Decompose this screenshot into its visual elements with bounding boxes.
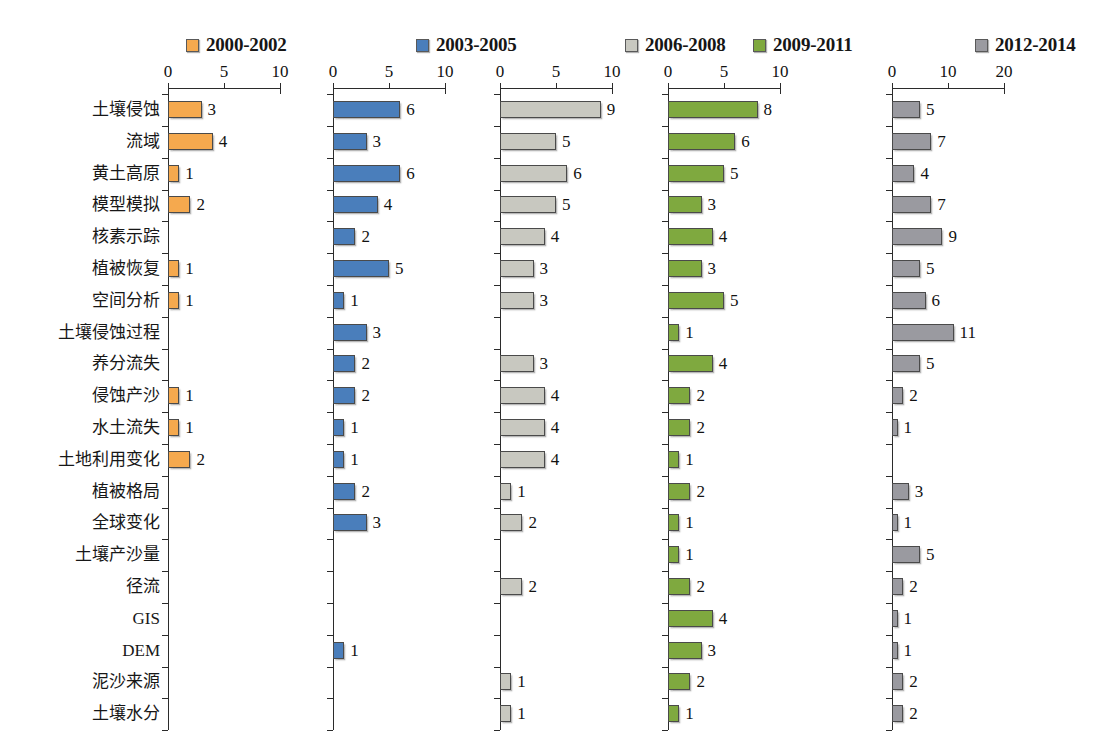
bar-value-label: 4 <box>719 610 728 627</box>
y-axis-tick <box>494 380 500 381</box>
bar <box>500 387 545 404</box>
bar-value-label: 6 <box>406 165 415 182</box>
bar <box>668 165 724 182</box>
y-axis-tick <box>327 444 333 445</box>
y-axis-tick <box>494 94 500 95</box>
bar-row: 3 <box>333 514 500 531</box>
y-axis-tick <box>327 126 333 127</box>
y-axis-tick <box>162 603 168 604</box>
x-axis-line <box>668 88 780 89</box>
bar-row: 4 <box>668 355 892 372</box>
y-axis-tick <box>886 571 892 572</box>
bar-row: 2 <box>333 228 500 245</box>
bar-value-label: 4 <box>551 451 560 468</box>
x-tick-label: 10 <box>272 62 289 82</box>
y-axis-tick <box>162 94 168 95</box>
y-axis-tick <box>327 539 333 540</box>
bar-row: 5 <box>892 355 1120 372</box>
bar-value-label: 2 <box>196 451 205 468</box>
bar-row: 1 <box>333 419 500 436</box>
y-axis-tick <box>494 190 500 191</box>
y-axis-tick <box>162 698 168 699</box>
bar <box>500 292 534 309</box>
y-axis-tick <box>162 539 168 540</box>
bar-row: 6 <box>333 165 500 182</box>
bar-value-label: 2 <box>696 578 705 595</box>
bar <box>892 578 903 595</box>
x-axis-end-cap <box>1004 88 1005 94</box>
plot-area: 86534351422121124321 <box>668 88 892 722</box>
y-axis-tick <box>162 508 168 509</box>
y-axis-tick <box>327 635 333 636</box>
bar-row: 2 <box>333 387 500 404</box>
bar-value-label: 3 <box>373 324 382 341</box>
bar-value-label: 3 <box>708 260 717 277</box>
y-axis-tick <box>327 190 333 191</box>
bar-row: 1 <box>168 260 333 277</box>
bar-row: 2 <box>500 578 668 595</box>
bar <box>500 355 534 372</box>
bar-value-label: 1 <box>685 451 694 468</box>
x-tick-label: 20 <box>996 62 1013 82</box>
bar <box>892 483 909 500</box>
bar <box>333 419 344 436</box>
bar-value-label: 2 <box>696 419 705 436</box>
bar-row: 3 <box>668 260 892 277</box>
bar <box>892 228 942 245</box>
y-axis-tick <box>162 190 168 191</box>
bar-row: 4 <box>500 228 668 245</box>
bar-value-label: 1 <box>517 673 526 690</box>
bar-row: 5 <box>500 196 668 213</box>
bar-row: 6 <box>668 133 892 150</box>
bar <box>668 514 679 531</box>
y-axis-tick <box>327 158 333 159</box>
panel-2000-2002: 0510341211112 <box>168 62 333 722</box>
bar-value-label: 1 <box>685 546 694 563</box>
bar <box>668 101 758 118</box>
bar-row: 3 <box>500 260 668 277</box>
bar <box>333 292 344 309</box>
bar-row: 8 <box>668 101 892 118</box>
legend-item-2006-2008: 2006-2008 <box>625 34 726 56</box>
y-axis-tick <box>327 476 333 477</box>
y-axis-tick <box>327 221 333 222</box>
bar <box>333 324 367 341</box>
bar-row: 2 <box>668 578 892 595</box>
x-tick-label: 5 <box>720 62 729 82</box>
y-axis-tick <box>886 412 892 413</box>
x-axis-tick <box>389 83 390 88</box>
bar <box>668 355 713 372</box>
bar-value-label: 2 <box>909 387 918 404</box>
bar <box>500 196 556 213</box>
bar-value-label: 1 <box>350 292 359 309</box>
x-axis-tick-labels: 0510 <box>500 62 668 88</box>
bar <box>892 514 898 531</box>
bar <box>333 387 355 404</box>
y-axis-tick <box>662 380 668 381</box>
bar-row: 1 <box>168 387 333 404</box>
bar-value-label: 5 <box>926 101 935 118</box>
bar-value-label: 4 <box>719 355 728 372</box>
y-axis-tick <box>162 349 168 350</box>
bar-row: 7 <box>892 133 1120 150</box>
bar-value-label: 9 <box>948 228 957 245</box>
x-tick-label: 10 <box>772 62 789 82</box>
panel-2003-2005: 0510636425132211231 <box>333 62 500 722</box>
bar-row: 1 <box>500 673 668 690</box>
y-axis-tick <box>494 667 500 668</box>
bar <box>892 642 898 659</box>
bar <box>892 324 954 341</box>
y-axis-tick <box>494 253 500 254</box>
bar <box>333 228 355 245</box>
bar-value-label: 1 <box>685 705 694 722</box>
bar-value-label: 3 <box>540 292 549 309</box>
bar-row: 2 <box>668 387 892 404</box>
y-axis-tick <box>662 476 668 477</box>
bar <box>168 387 179 404</box>
x-tick-label: 0 <box>888 62 897 82</box>
x-tick-label: 10 <box>604 62 621 82</box>
bar <box>500 165 567 182</box>
bar-value-label: 7 <box>937 133 946 150</box>
bar-row: 2 <box>333 355 500 372</box>
bar-row: 5 <box>500 133 668 150</box>
